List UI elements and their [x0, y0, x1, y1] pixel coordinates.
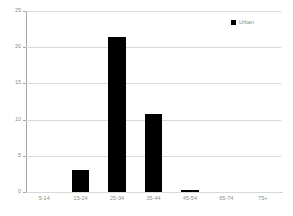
bar-slot-5-14	[26, 11, 62, 192]
bars	[26, 11, 281, 192]
y-tick-label-10: 10	[15, 117, 21, 123]
bar-35-44	[145, 114, 162, 192]
bar-slot-45-54	[172, 11, 208, 192]
x-axis-label-35-44: 35-44	[135, 196, 171, 202]
legend-label-urban: Urban	[239, 20, 254, 26]
x-axis-label-45-54: 45-54	[172, 196, 208, 202]
x-axis-label-5-14: 5-14	[26, 196, 62, 202]
plot-area: 0510152025	[26, 11, 281, 192]
y-tick-label-15: 15	[15, 81, 21, 87]
bar-slot-25-34	[99, 11, 135, 192]
y-tick-mark-0	[23, 192, 26, 193]
bar-slot-15-24	[62, 11, 98, 192]
x-axis-label-75+: 75+	[245, 196, 281, 202]
gridline-0	[26, 192, 281, 193]
x-axis-label-15-24: 15-24	[62, 196, 98, 202]
y-tick-label-0: 0	[18, 189, 21, 195]
x-axis-label-65-74: 65-74	[208, 196, 244, 202]
legend: Urban	[231, 20, 254, 26]
y-tick-label-5: 5	[18, 153, 21, 159]
x-axis-labels: 5-1415-2425-3435-4445-5465-7475+	[26, 196, 281, 210]
bar-45-54	[181, 190, 198, 192]
bar-slot-35-44	[135, 11, 171, 192]
bar-slot-75+	[245, 11, 281, 192]
bar-chart: 0510152025 5-1415-2425-3435-4445-5465-74…	[0, 0, 293, 216]
legend-swatch-urban	[231, 20, 236, 25]
y-tick-label-25: 25	[15, 8, 21, 14]
bar-slot-65-74	[208, 11, 244, 192]
bar-25-34	[108, 37, 125, 192]
y-tick-label-20: 20	[15, 44, 21, 50]
bar-15-24	[72, 170, 89, 192]
x-axis-label-25-34: 25-34	[99, 196, 135, 202]
